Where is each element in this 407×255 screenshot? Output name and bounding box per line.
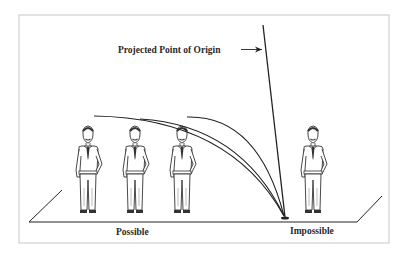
person-figure-1: [76, 126, 102, 213]
person-figure-3: [170, 126, 196, 213]
origin-point-marker: [281, 217, 289, 220]
possible-label: Possible: [116, 227, 149, 237]
person-figure-2: [123, 126, 149, 213]
projected-origin-label: Projected Point of Origin: [118, 45, 221, 55]
impossible-label: Impossible: [290, 226, 334, 236]
point-of-origin-diagram: Projected Point of Origin Possible Impos…: [0, 0, 407, 255]
arrow-icon: [241, 47, 262, 53]
trajectory-arc-3: [187, 117, 284, 216]
person-figure-4: [301, 126, 327, 213]
projected-origin-line: [263, 25, 285, 217]
trajectory-arc-2: [140, 119, 284, 216]
